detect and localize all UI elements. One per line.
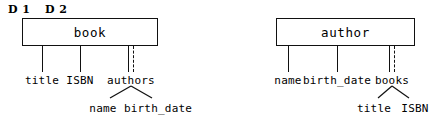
attr-line-name: [288, 46, 289, 72]
branch-books-to-isbn: [392, 86, 409, 98]
attr-label-title: title: [25, 74, 59, 87]
attr-line-authors-solid: [128, 46, 129, 72]
attr-line-books-solid: [389, 46, 390, 72]
branch-authors-to-name: [110, 86, 131, 98]
panel-label-d2: D 2: [45, 3, 68, 16]
attr-label-birth-date: birth_date: [303, 74, 371, 87]
attr-label-books: books: [375, 74, 409, 87]
schema-diagram-canvas: D 1 D 2 book title ISBN authors name bir…: [0, 0, 438, 134]
nested-attr-label-isbn: ISBN: [401, 102, 428, 115]
attr-label-name: name: [274, 74, 301, 87]
branch-books-to-title: [378, 86, 392, 98]
entity-box-author: author: [276, 18, 415, 46]
attr-line-isbn: [80, 46, 81, 72]
attr-label-authors: authors: [107, 74, 155, 87]
nested-attr-label-title: title: [357, 102, 391, 115]
entity-name-book: book: [74, 25, 107, 40]
attr-label-isbn: ISBN: [66, 74, 93, 87]
nested-attr-label-name: name: [89, 102, 116, 115]
attr-line-books-dashed: [394, 46, 395, 72]
entity-box-book: book: [22, 18, 158, 46]
panel-label-d1: D 1: [8, 3, 31, 16]
branch-authors-to-birth-date: [131, 86, 152, 98]
attr-line-authors-dashed: [133, 46, 134, 72]
attr-line-birth-date: [337, 46, 338, 72]
entity-name-author: author: [321, 25, 370, 40]
attr-line-title: [42, 46, 43, 72]
nested-attr-label-birth-date: birth_date: [124, 102, 192, 115]
